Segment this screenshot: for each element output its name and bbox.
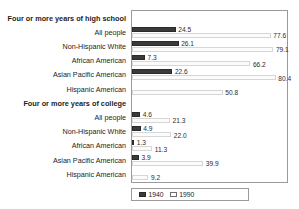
category-label: Hispanic American	[0, 83, 126, 97]
bar-1990	[132, 175, 148, 180]
bar-value-label: 66.2	[253, 62, 266, 69]
education-attainment-bar-chart: Four or more years of high schoolAll peo…	[0, 0, 299, 209]
bar-1990	[132, 161, 203, 166]
bar-1940	[132, 140, 134, 145]
legend-label-1940: 1940	[149, 191, 164, 198]
bar-1940	[132, 112, 140, 117]
chart-row: Non-Hispanic White26.179.1	[0, 40, 299, 54]
row-bars: 4.922.0	[132, 125, 287, 139]
row-bars: 50.8	[132, 83, 287, 97]
chart-row: All people24.577.6	[0, 26, 299, 40]
chart-row: Hispanic American9.2	[0, 168, 299, 182]
legend-swatch-1990	[170, 192, 177, 198]
legend-item-1990: 1990	[170, 191, 195, 198]
chart-row: African American1.311.3	[0, 139, 299, 153]
bar-value-label: 79.1	[276, 47, 289, 54]
bar-value-label: 22.0	[174, 133, 187, 140]
category-label: Non-Hispanic White	[0, 40, 126, 54]
row-bars: 26.179.1	[132, 40, 287, 54]
bar-1940	[132, 27, 176, 32]
category-label: African American	[0, 139, 126, 153]
row-bars: 7.366.2	[132, 54, 287, 68]
bar-value-label: 50.8	[225, 90, 238, 97]
bar-1990	[132, 75, 276, 80]
chart-row: Asian Pacific American22.680.4	[0, 68, 299, 82]
bar-1990	[132, 146, 152, 151]
category-label: African American	[0, 54, 126, 68]
bar-1940	[132, 126, 141, 131]
category-label: All people	[0, 111, 126, 125]
chart-row: African American7.366.2	[0, 54, 299, 68]
bar-value-label: 21.3	[173, 118, 186, 125]
bar-1990	[132, 33, 271, 38]
chart-legend: 1940 1990	[131, 188, 249, 201]
legend-item-1940: 1940	[139, 191, 164, 198]
bar-1940	[132, 69, 172, 74]
chart-row: Non-Hispanic White4.922.0	[0, 125, 299, 139]
legend-swatch-1940	[139, 192, 146, 198]
legend-label-1990: 1990	[179, 191, 194, 198]
section-title: Four or more years of high school	[0, 12, 126, 26]
chart-row: Hispanic American50.8	[0, 83, 299, 97]
category-label: Asian Pacific American	[0, 68, 126, 82]
section-title: Four or more years of college	[0, 97, 126, 111]
bar-value-label: 80.4	[278, 76, 291, 83]
row-bars: 22.680.4	[132, 68, 287, 82]
bar-1990	[132, 47, 273, 52]
category-label: All people	[0, 26, 126, 40]
bar-value-label: 9.2	[151, 175, 160, 182]
row-bars: 1.311.3	[132, 139, 287, 153]
bar-value-label: 77.6	[273, 33, 286, 40]
section-header-row: Four or more years of college	[0, 97, 299, 111]
category-label: Hispanic American	[0, 168, 126, 182]
bar-1990	[132, 61, 250, 66]
row-bars: 24.577.6	[132, 26, 287, 40]
chart-row: All people4.621.3	[0, 111, 299, 125]
bar-1990	[132, 118, 170, 123]
category-label: Non-Hispanic White	[0, 125, 126, 139]
row-bars: 4.621.3	[132, 111, 287, 125]
section-header-row: Four or more years of high school	[0, 12, 299, 26]
row-bars: 9.2	[132, 168, 287, 182]
bar-1940	[132, 155, 139, 160]
category-label: Asian Pacific American	[0, 154, 126, 168]
bar-1940	[132, 55, 145, 60]
bar-1990	[132, 132, 171, 137]
bar-1940	[132, 41, 179, 46]
bar-1990	[132, 90, 223, 95]
chart-row: Asian Pacific American3.939.9	[0, 154, 299, 168]
bar-value-label: 39.9	[206, 161, 219, 168]
row-bars: 3.939.9	[132, 154, 287, 168]
bar-value-label: 11.3	[155, 147, 167, 154]
